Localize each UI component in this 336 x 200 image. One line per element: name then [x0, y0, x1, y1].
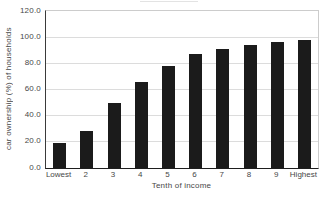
y-tick-label-40.0: 40.0 [0, 110, 41, 119]
y-tick-label-20.0: 20.0 [0, 136, 41, 145]
bar-3 [108, 103, 121, 168]
gridline-100.0 [46, 37, 318, 38]
bar-9 [271, 42, 284, 168]
scan-artifact-line [140, 1, 198, 2]
x-axis-title: Tenth of income [45, 181, 318, 190]
bar-highest [298, 40, 311, 168]
x-tick-label-highest: Highest [285, 170, 322, 179]
bar-7 [216, 49, 229, 168]
y-tick-label-120.0: 120.0 [0, 6, 41, 15]
y-tick-label-100.0: 100.0 [0, 32, 41, 41]
bar-8 [244, 45, 257, 168]
y-tick-label-0.0: 0.0 [0, 163, 41, 172]
bar-lowest [53, 143, 66, 168]
y-tick-label-60.0: 60.0 [0, 84, 41, 93]
bar-4 [135, 82, 148, 168]
bar-2 [80, 131, 93, 168]
plot-area [45, 10, 319, 169]
bar-6 [189, 54, 202, 168]
bar-chart: car ownership (%) of households Tenth of… [0, 0, 336, 200]
bar-5 [162, 66, 175, 168]
y-tick-label-80.0: 80.0 [0, 58, 41, 67]
